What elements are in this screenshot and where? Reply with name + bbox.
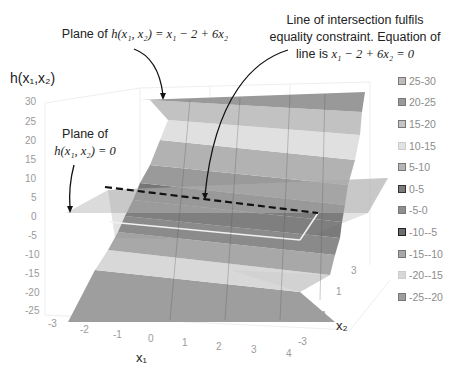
legend-swatch	[398, 293, 406, 301]
legend-swatch	[398, 228, 406, 236]
legend-label: -25--20	[409, 291, 443, 303]
annotation-plane-zero: Plane of h(x₁, x₂) = 0	[42, 126, 128, 160]
legend-swatch	[398, 271, 406, 279]
legend-label: -15--10	[409, 248, 443, 260]
x1-tick: 4	[286, 348, 292, 359]
x1-tick: 0	[148, 333, 154, 344]
x1-tick: 3	[251, 344, 257, 355]
x2-tick: -1	[318, 310, 327, 321]
annotation-plane-h: Plane of h(x₁, x₂) = x₁ − 2 + 6x₂	[50, 26, 240, 43]
x2-axis-label: x₂	[336, 318, 348, 333]
legend-label: -20--15	[409, 269, 443, 281]
z-tick: 0	[31, 211, 37, 222]
annotation-plane-h-formula: h(x₁, x₂) = x₁ − 2 + 6x₂	[111, 27, 228, 41]
z-tick: -25	[25, 305, 39, 316]
x1-tick: 2	[216, 341, 222, 352]
annotation-plane-zero-formula: h(x₁, x₂) = 0	[42, 143, 128, 160]
legend-item: 15-20	[398, 113, 455, 135]
z-tick: 25	[25, 116, 36, 127]
legend: 25-30 20-25 15-20 10-15 5-10 0-5 -5-0 -1…	[398, 70, 455, 308]
legend-swatch	[398, 98, 406, 106]
legend-swatch	[398, 120, 406, 128]
legend-item: -25--20	[398, 286, 455, 308]
legend-item: 5-10	[398, 156, 455, 178]
x2-tick: 1	[336, 286, 342, 297]
annotation-intersection-formula: x₁ − 2 + 6x₂ = 0	[331, 47, 414, 61]
legend-item: -10--5	[398, 221, 455, 243]
legend-item: 10-15	[398, 135, 455, 157]
legend-item: 0-5	[398, 178, 455, 200]
legend-label: 20-25	[409, 96, 436, 108]
z-tick: 10	[25, 173, 36, 184]
legend-label: 5-10	[409, 161, 430, 173]
x2-tick: 3	[351, 265, 357, 276]
annotation-plane-h-prefix: Plane of	[62, 27, 111, 41]
legend-label: 0-5	[409, 183, 424, 195]
z-tick: -15	[25, 268, 39, 279]
legend-swatch	[398, 250, 406, 258]
legend-label: 10-15	[409, 140, 436, 152]
legend-item: -15--10	[398, 243, 455, 265]
z-tick: -10	[25, 249, 39, 260]
legend-label: -5-0	[409, 204, 428, 216]
legend-item: 25-30	[398, 70, 455, 92]
legend-swatch	[398, 77, 406, 85]
legend-label: 15-20	[409, 118, 436, 130]
annotation-intersection: Line of intersection fulfils equality co…	[255, 12, 455, 63]
legend-swatch	[398, 142, 406, 150]
x1-tick: -3	[48, 318, 57, 329]
z-tick: 15	[25, 154, 36, 165]
legend-item: 20-25	[398, 92, 455, 114]
legend-label: -10--5	[409, 226, 437, 238]
annotation-intersection-prefix: line is	[296, 47, 331, 61]
z-tick: -20	[25, 287, 39, 298]
legend-swatch	[398, 185, 406, 193]
legend-item: -20--15	[398, 264, 455, 286]
legend-item: -5-0	[398, 200, 455, 222]
x1-tick: -1	[113, 329, 122, 340]
z-tick: 5	[31, 192, 37, 203]
annotation-plane-zero-line1: Plane of	[42, 126, 128, 143]
z-tick: 20	[25, 135, 36, 146]
annotation-intersection-line2: equality constraint. Equation of	[255, 29, 455, 46]
legend-label: 25-30	[409, 75, 436, 87]
z-tick: -5	[28, 230, 37, 241]
x2-tick: -3	[298, 336, 307, 347]
x1-tick: -2	[80, 324, 89, 335]
legend-swatch	[398, 163, 406, 171]
x1-axis-label: x₁	[136, 350, 147, 365]
z-axis-label: h(x₁,x₂)	[10, 70, 55, 86]
z-tick: 30	[25, 96, 36, 107]
annotation-intersection-line1: Line of intersection fulfils	[255, 12, 455, 29]
legend-swatch	[398, 206, 406, 214]
x1-tick: 1	[182, 337, 188, 348]
